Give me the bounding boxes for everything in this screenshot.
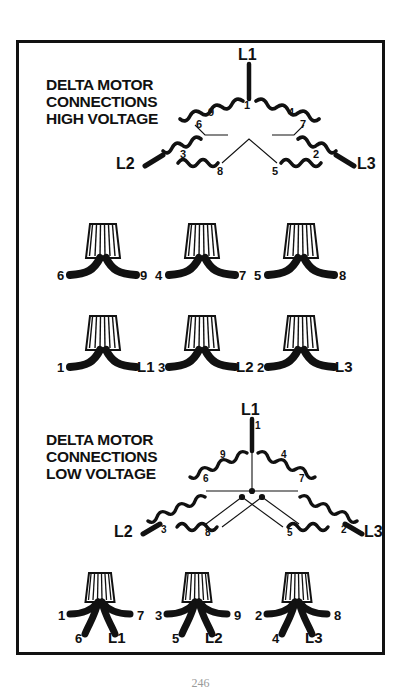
page-canvas: DELTA MOTOR CONNECTIONS HIGH VOLTAGE DEL…	[0, 0, 401, 689]
lv-terminal-l2: L2	[114, 523, 133, 541]
hv-row2-group1-right-label: L1	[137, 358, 155, 375]
hv-tap-9: 9	[208, 106, 214, 118]
lv-group2-lower-left-label: 5	[172, 631, 179, 646]
lv-tap-3: 3	[161, 524, 167, 535]
hv-terminal-l1: L1	[238, 46, 257, 64]
hv-tap-7: 7	[300, 118, 306, 130]
lv-tap-4: 4	[281, 449, 287, 460]
lv-group2-lower-right-label: L2	[205, 629, 223, 646]
hv-tap-5: 5	[272, 165, 278, 177]
lv-group1-lower-left-label: 6	[75, 631, 82, 646]
high-voltage-title: DELTA MOTOR CONNECTIONS HIGH VOLTAGE	[46, 76, 158, 127]
hv-tap-8: 8	[217, 165, 223, 177]
hv-row2-group3-left-label: 2	[257, 360, 264, 375]
hv-tap-1: 1	[244, 99, 250, 111]
hv-tap-3: 3	[180, 148, 186, 160]
diagram-frame	[16, 40, 385, 655]
lv-tap-5: 5	[287, 527, 293, 538]
lv-group1-lower-right-label: L1	[108, 629, 126, 646]
lv-group3-upper-right-label: 8	[334, 608, 341, 623]
hv-tap-4: 4	[288, 106, 294, 118]
hv-row1-group1-right-label: 9	[140, 268, 147, 283]
hv-row2-group2-left-label: 3	[158, 360, 165, 375]
hv-tap-2: 2	[313, 148, 319, 160]
hv-row1-group3-right-label: 8	[339, 268, 346, 283]
hv-tap-6: 6	[196, 118, 202, 130]
lv-group3-upper-left-label: 2	[255, 608, 262, 623]
lv-tap-7: 7	[299, 473, 305, 484]
lv-group1-upper-left-label: 1	[58, 608, 65, 623]
low-voltage-title: DELTA MOTOR CONNECTIONS LOW VOLTAGE	[46, 431, 157, 482]
lv-tap-1: 1	[255, 420, 261, 431]
hv-row1-group1-left-label: 6	[57, 268, 64, 283]
page-number: 246	[0, 676, 401, 689]
lv-tap-6: 6	[203, 473, 209, 484]
lv-group3-lower-right-label: L3	[305, 629, 323, 646]
lv-terminal-l3: L3	[364, 523, 383, 541]
lv-group2-upper-right-label: 9	[234, 608, 241, 623]
hv-row1-group2-right-label: 7	[239, 268, 246, 283]
hv-row2-group2-right-label: L2	[236, 358, 254, 375]
lv-group2-upper-left-label: 3	[155, 608, 162, 623]
hv-row1-group2-left-label: 4	[155, 268, 162, 283]
lv-group1-upper-right-label: 7	[137, 608, 144, 623]
lv-tap-9: 9	[220, 449, 226, 460]
lv-tap-2: 2	[341, 524, 347, 535]
hv-terminal-l2: L2	[116, 155, 135, 173]
lv-tap-8: 8	[205, 527, 211, 538]
lv-terminal-l1: L1	[241, 401, 260, 419]
hv-terminal-l3: L3	[357, 155, 376, 173]
hv-row2-group1-left-label: 1	[57, 360, 64, 375]
lv-group3-lower-left-label: 4	[272, 631, 279, 646]
hv-row2-group3-right-label: L3	[335, 358, 353, 375]
hv-row1-group3-left-label: 5	[254, 268, 261, 283]
